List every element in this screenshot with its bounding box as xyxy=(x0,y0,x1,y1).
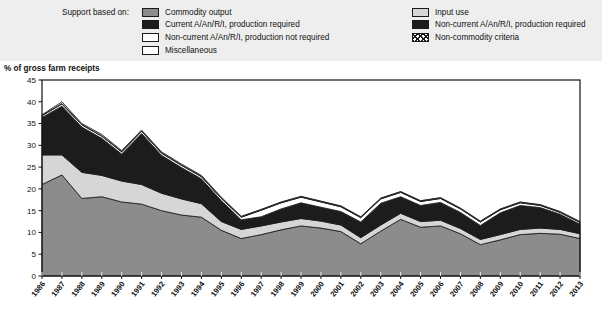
noncurrent-production-not-required-swatch xyxy=(142,33,159,42)
x-axis-tick-label: 1987 xyxy=(50,280,68,299)
x-axis-tick-label: 1992 xyxy=(149,280,167,299)
commodity-output-swatch xyxy=(142,8,159,17)
x-axis-tick-label: 1999 xyxy=(289,280,307,299)
y-axis-tick-label: 25 xyxy=(27,163,36,172)
legend-item-label: Non-commodity criteria xyxy=(435,33,519,42)
x-axis-tick-label: 1996 xyxy=(229,280,247,299)
y-axis-ticks: 051015202530354045 xyxy=(27,76,42,281)
x-axis-tick-label: 1988 xyxy=(69,280,87,299)
legend-item-noncurrent-production-not-required: Non-current A/An/R/I, production not req… xyxy=(142,31,329,44)
x-axis-tick-label: 1993 xyxy=(169,280,187,299)
x-axis-tick-label: 2005 xyxy=(408,279,426,298)
x-axis-tick-label: 2006 xyxy=(428,280,446,299)
legend-item-label: Non-current A/An/R/I, production require… xyxy=(435,20,586,29)
legend-item-label: Input use xyxy=(435,8,469,17)
legend-column-right: Input use Non-current A/An/R/I, producti… xyxy=(412,6,586,44)
chart-canvas: 051015202530354045 198619871988198919901… xyxy=(0,70,602,313)
legend-title: Support based on: xyxy=(62,8,129,18)
y-axis-tick-label: 0 xyxy=(32,272,37,281)
legend-item-noncurrent-production-required: Non-current A/An/R/I, production require… xyxy=(412,19,586,32)
y-axis-tick-label: 30 xyxy=(27,141,36,150)
y-axis-tick-label: 45 xyxy=(27,76,36,85)
x-axis-tick-label: 1991 xyxy=(129,279,147,298)
x-axis-tick-label: 1998 xyxy=(269,280,287,299)
x-axis-tick-label: 2011 xyxy=(528,279,546,298)
legend-item-input-use: Input use xyxy=(412,6,586,19)
x-axis-tick-label: 2009 xyxy=(488,280,506,299)
legend-item-current-production-required: Current A/An/R/I, production required xyxy=(142,19,329,32)
y-axis-tick-label: 20 xyxy=(27,185,36,194)
miscellaneous-swatch xyxy=(142,46,159,55)
legend-item-label: Non-current A/An/R/I, production not req… xyxy=(165,33,329,42)
x-axis-tick-label: 2010 xyxy=(508,280,526,299)
y-axis-tick-label: 10 xyxy=(27,228,36,237)
legend-column-left: Commodity output Current A/An/R/I, produ… xyxy=(142,6,329,56)
x-axis-tick-label: 1986 xyxy=(30,280,48,299)
x-axis-tick-label: 2012 xyxy=(548,280,566,299)
x-axis-tick-label: 2008 xyxy=(468,280,486,299)
x-axis-tick-label: 2001 xyxy=(328,279,346,298)
legend-item-non-commodity-criteria: Non-commodity criteria xyxy=(412,31,586,44)
y-axis-tick-label: 35 xyxy=(27,119,36,128)
legend-item-label: Miscellaneous xyxy=(165,46,217,55)
non-commodity-criteria-swatch xyxy=(412,33,429,42)
chart-legend-panel: Support based on: Commodity output Curre… xyxy=(0,0,602,61)
x-axis-tick-label: 1989 xyxy=(89,280,107,299)
x-axis-tick-label: 2003 xyxy=(368,280,386,299)
x-axis-tick-label: 1997 xyxy=(249,280,267,299)
chart-series-areas xyxy=(42,102,580,276)
y-axis-tick-label: 5 xyxy=(32,250,37,259)
y-axis-tick-label: 40 xyxy=(27,98,36,107)
y-axis-tick-label: 15 xyxy=(27,207,36,216)
x-axis-tick-label: 1990 xyxy=(109,280,127,299)
x-axis-tick-label: 2000 xyxy=(309,280,327,299)
legend-item-label: Current A/An/R/I, production required xyxy=(165,20,300,29)
legend-item-miscellaneous: Miscellaneous xyxy=(142,44,329,57)
legend-item-commodity-output: Commodity output xyxy=(142,6,329,19)
x-axis-tick-label: 2013 xyxy=(568,280,586,299)
current-production-required-swatch xyxy=(142,20,159,29)
noncurrent-production-required-swatch xyxy=(412,20,429,29)
legend-item-label: Commodity output xyxy=(165,8,231,17)
x-axis-tick-label: 1994 xyxy=(189,279,207,298)
stacked-area-chart: 051015202530354045 198619871988198919901… xyxy=(0,70,602,313)
x-axis-tick-label: 2004 xyxy=(388,279,406,298)
x-axis-tick-label: 2007 xyxy=(448,280,466,299)
x-axis-tick-label: 1995 xyxy=(209,279,227,298)
x-axis-tick-label: 2002 xyxy=(348,280,366,299)
input-use-swatch xyxy=(412,8,429,17)
